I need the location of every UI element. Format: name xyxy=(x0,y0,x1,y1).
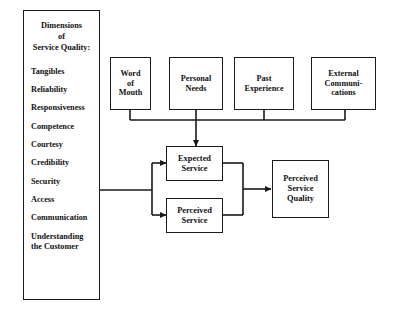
box-external-communications: External Communi- cations xyxy=(311,57,376,110)
box-word-of-mouth-line-2: of xyxy=(127,79,134,89)
box-expected-service: Expected Service xyxy=(166,146,223,181)
dimensions-heading-line-2: of xyxy=(24,31,99,42)
dimension-item-credibility: Credibility xyxy=(31,158,99,168)
box-personal-needs-line-1: Personal xyxy=(181,74,211,84)
dimensions-panel-heading: Dimensions of Service Quality: xyxy=(24,20,99,54)
dimension-item-understanding-line-1: Understanding xyxy=(31,232,99,242)
dimensions-panel: Dimensions of Service Quality: Tangibles… xyxy=(23,10,100,300)
dimensions-list: Tangibles Reliability Responsiveness Com… xyxy=(24,67,99,252)
box-word-of-mouth: Word of Mouth xyxy=(110,57,151,110)
dimension-item-reliability: Reliability xyxy=(31,85,99,95)
box-expected-service-line-1: Expected xyxy=(178,154,211,164)
dimension-item-access: Access xyxy=(31,195,99,205)
box-personal-needs: Personal Needs xyxy=(169,57,223,110)
box-word-of-mouth-line-3: Mouth xyxy=(119,88,143,98)
box-past-experience: Past Experience xyxy=(234,57,294,110)
dimension-item-responsiveness: Responsiveness xyxy=(31,103,99,113)
box-word-of-mouth-line-1: Word xyxy=(120,69,140,79)
dimension-item-courtesy: Courtesy xyxy=(31,140,99,150)
box-external-communications-line-1: External xyxy=(328,69,358,79)
dimension-item-understanding-line-2: the Customer xyxy=(31,242,99,252)
dimension-item-tangibles: Tangibles xyxy=(31,67,99,77)
box-perceived-service: Perceived Service xyxy=(166,198,223,233)
box-perceived-service-quality-line-1: Perceived xyxy=(283,174,318,184)
dimensions-heading-line-1: Dimensions xyxy=(24,20,99,31)
box-past-experience-line-1: Past xyxy=(256,74,271,84)
box-perceived-service-line-1: Perceived xyxy=(177,206,212,216)
box-perceived-service-quality-line-3: Quality xyxy=(287,194,314,204)
box-perceived-service-quality: Perceived Service Quality xyxy=(272,160,329,218)
box-expected-service-line-2: Service xyxy=(181,164,207,174)
dimension-item-security: Security xyxy=(31,177,99,187)
box-personal-needs-line-2: Needs xyxy=(186,84,207,94)
dimensions-heading-line-3: Service Quality: xyxy=(24,42,99,53)
dimension-item-understanding-the-customer: Understanding the Customer xyxy=(31,232,99,252)
service-quality-diagram: Dimensions of Service Quality: Tangibles… xyxy=(0,0,398,314)
dimension-item-communication: Communication xyxy=(31,213,99,223)
box-external-communications-line-2: Communi- xyxy=(325,79,363,89)
box-perceived-service-line-2: Service xyxy=(181,216,207,226)
box-external-communications-line-3: cations xyxy=(331,88,356,98)
box-past-experience-line-2: Experience xyxy=(244,84,283,94)
box-perceived-service-quality-line-2: Service xyxy=(287,184,313,194)
dimension-item-competence: Competence xyxy=(31,122,99,132)
